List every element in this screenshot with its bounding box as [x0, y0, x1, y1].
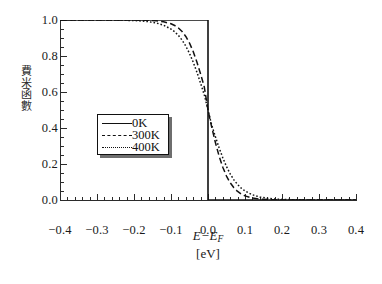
y-tick-label: 0.0 — [42, 193, 58, 208]
y-tick-major — [61, 200, 67, 201]
x-tick-labels: −0.4−0.3−0.2−0.10.00.10.20.30.4 — [60, 20, 356, 200]
x-axis-units: [eV] — [60, 246, 356, 261]
y-axis-title-char-4: 數 — [19, 101, 34, 113]
fermi-function-figure: −0.4−0.3−0.2−0.10.00.10.20.30.4 0.00.20.… — [0, 0, 382, 284]
x-axis-title-subscript: F — [217, 234, 223, 244]
x-axis-title-lead: E−E — [193, 228, 218, 243]
y-axis-title: 費 米 函 數 — [19, 66, 34, 113]
legend-swatch-dotted-icon — [102, 142, 132, 153]
y-tick-label: 0.2 — [42, 157, 58, 172]
y-tick-label: 0.8 — [42, 49, 58, 64]
x-axis-line — [60, 200, 357, 201]
y-tick-label: 1.0 — [42, 13, 58, 28]
x-axis-title: E−EF — [60, 228, 356, 245]
legend-swatch-dashed-icon — [102, 130, 132, 141]
legend[interactable]: 0K 300K 400K — [97, 114, 169, 155]
legend-swatch-solid-icon — [102, 118, 132, 129]
y-tick-label: 0.4 — [42, 121, 58, 136]
x-tick-major — [356, 194, 357, 200]
plot-area: −0.4−0.3−0.2−0.10.00.10.20.30.4 — [60, 20, 356, 200]
y-tick-label: 0.6 — [42, 85, 58, 100]
legend-label-400k: 400K — [132, 141, 160, 154]
y-axis-title-char-1: 費 — [19, 66, 34, 78]
x-axis-title-block: E−EF [eV] — [60, 228, 356, 262]
legend-item-400k[interactable]: 400K — [102, 141, 165, 153]
